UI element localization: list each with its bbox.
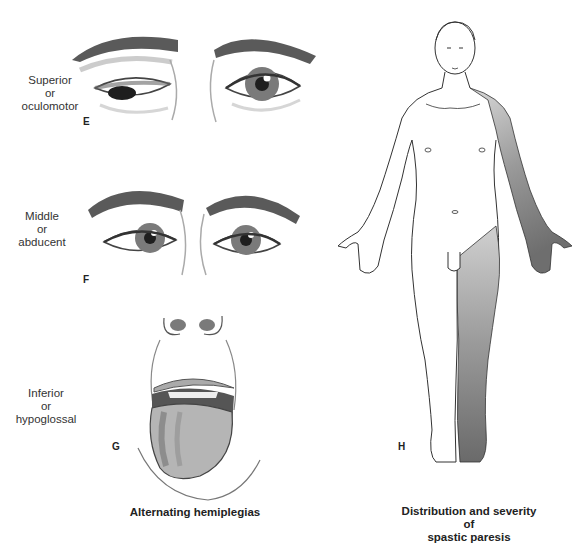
panel-g-label-line-1: Inferior — [14, 387, 78, 400]
nostril-icon — [170, 319, 186, 331]
left-caption: Alternating hemiplegias — [120, 506, 270, 519]
right-caption: Distribution and severity of spastic par… — [394, 505, 544, 544]
spastic-paresis-body-illustration — [320, 0, 588, 470]
oculomotor-eyes-illustration — [0, 0, 320, 150]
eyebrow-left-icon — [88, 191, 184, 218]
panel-g-label-line-3: hypoglossal — [14, 413, 78, 426]
eyebrow-right-icon — [206, 196, 300, 224]
hypoglossal-tongue-illustration — [80, 300, 280, 500]
panel-g-label-line-2: or — [14, 400, 78, 413]
abducent-eyes-illustration — [0, 150, 320, 280]
panel-g-label: Inferior or hypoglossal — [14, 387, 78, 426]
deviated-pupil-icon — [108, 86, 136, 100]
right-caption-line-1: Distribution and severity — [394, 505, 544, 518]
eyebrow-right-icon — [214, 39, 316, 64]
right-caption-line-3: spastic paresis — [394, 531, 544, 544]
affected-leg-shading — [457, 226, 500, 462]
right-caption-line-2: of — [394, 518, 544, 531]
head-icon — [435, 22, 475, 74]
nostril-icon — [199, 319, 215, 331]
